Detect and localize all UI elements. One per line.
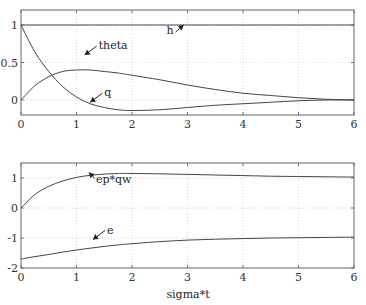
x-tick-label: 0: [18, 118, 25, 131]
series-line-e: [21, 237, 354, 259]
y-tick-label: 1: [11, 19, 18, 32]
x-tick-label: 1: [73, 118, 80, 131]
x-tick-label: 5: [295, 118, 302, 131]
arrowhead-icon: [93, 234, 99, 239]
arrowhead-icon: [90, 97, 96, 102]
x-tick-label: 0: [18, 271, 25, 284]
annotation-label: theta: [99, 39, 128, 52]
x-tick-label: 3: [184, 271, 191, 284]
arrowhead-icon: [85, 50, 91, 55]
y-tick-label: 0.5: [1, 57, 19, 70]
series-line-theta: [21, 70, 354, 100]
x-tick-label: 3: [184, 118, 191, 131]
x-tick-label: 2: [129, 271, 136, 284]
annotation-label: e: [107, 224, 114, 237]
y-tick-label: 0: [11, 202, 18, 215]
annotation-label: q: [104, 86, 111, 99]
y-tick-label: -1: [7, 232, 18, 245]
x-tick-label: 6: [351, 271, 358, 284]
x-tick-label: 6: [351, 118, 358, 131]
bottom-plot: 0123456-2-101ep*qwe: [7, 163, 357, 284]
x-tick-label: 5: [295, 271, 302, 284]
x-tick-label: 4: [240, 118, 247, 131]
y-tick-label: -2: [7, 262, 18, 275]
annotation-label: h: [167, 24, 174, 37]
top-plot: 012345600.51hthetaq: [1, 10, 358, 131]
chart-figure: 012345600.51hthetaq 0123456-2-101ep*qwe …: [0, 0, 366, 305]
x-tick-label: 1: [73, 271, 80, 284]
x-tick-label: 4: [240, 271, 247, 284]
x-tick-label: 2: [129, 118, 136, 131]
y-tick-label: 1: [11, 172, 18, 185]
y-tick-label: 0: [11, 94, 18, 107]
x-axis-label: sigma*t: [166, 288, 210, 301]
annotation-label: ep*qw: [96, 173, 132, 186]
